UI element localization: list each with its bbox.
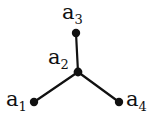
vertex-label-a3: a3 bbox=[62, 2, 83, 23]
vertex-label-a2-subscript: 2 bbox=[61, 57, 69, 72]
graph-figure: a3 a2 a1 a4 bbox=[0, 0, 158, 124]
vertex-label-a2: a2 bbox=[48, 47, 69, 68]
vertex-dot-a4 bbox=[115, 98, 123, 106]
vertex-label-a3-base: a bbox=[62, 0, 75, 24]
vertex-label-a4-base: a bbox=[126, 87, 139, 111]
graph-edges bbox=[34, 33, 119, 102]
vertex-dot-a2 bbox=[74, 68, 83, 77]
edge-a2-a3 bbox=[76, 33, 78, 72]
vertex-label-a4-subscript: 4 bbox=[139, 99, 147, 114]
vertex-dot-a1 bbox=[30, 98, 38, 106]
vertex-label-a3-subscript: 3 bbox=[75, 12, 83, 27]
vertex-label-a4: a4 bbox=[126, 89, 147, 110]
edge-a2-a4 bbox=[78, 72, 119, 102]
vertex-label-a1: a1 bbox=[6, 89, 27, 110]
vertex-label-a1-base: a bbox=[6, 87, 19, 111]
vertex-dot-a3 bbox=[72, 29, 80, 37]
vertex-label-a1-subscript: 1 bbox=[19, 99, 27, 114]
edge-a2-a1 bbox=[34, 72, 78, 102]
vertex-label-a2-base: a bbox=[48, 45, 61, 69]
